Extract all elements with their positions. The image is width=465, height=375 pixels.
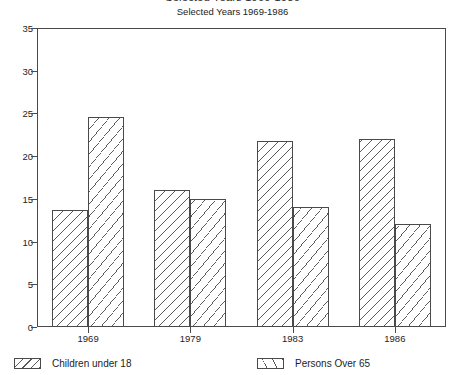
x-axis-tick-label: 1969 <box>78 333 99 344</box>
x-axis-tick-mark <box>190 327 191 333</box>
bar-1983-persons-over-65 <box>293 207 329 327</box>
x-axis-tick-mark <box>293 327 294 333</box>
y-axis-tick-label: 30 <box>0 65 33 76</box>
y-axis-tick-mark <box>31 199 37 200</box>
y-axis-tick-mark <box>31 156 37 157</box>
x-axis-tick-label: 1986 <box>384 333 405 344</box>
x-axis-tick-label: 1983 <box>282 333 303 344</box>
legend-label-children-under-18: Children under 18 <box>52 358 132 369</box>
y-axis-tick-label: 35 <box>0 23 33 34</box>
x-axis-tick-label: 1979 <box>180 333 201 344</box>
chart-title: Selected Years 1969-1986 <box>0 0 465 2</box>
y-axis-tick-mark <box>31 242 37 243</box>
bar-1986-children-under-18 <box>359 139 395 327</box>
bar-1979-children-under-18 <box>154 190 190 327</box>
y-axis-tick-label: 5 <box>0 279 33 290</box>
chart-container: Selected Years 1969-1986 Selected Years … <box>0 0 465 375</box>
legend-swatch-children-under-18 <box>14 358 41 369</box>
y-axis-tick-label: 10 <box>0 236 33 247</box>
x-axis-tick-mark <box>395 327 396 333</box>
bar-1983-children-under-18 <box>257 141 293 327</box>
y-axis-tick-label: 0 <box>0 322 33 333</box>
y-axis-tick-label: 15 <box>0 193 33 204</box>
chart-legend: Children under 18 Persons Over 65 <box>0 352 465 375</box>
legend-item-persons-over-65: Persons Over 65 <box>257 355 370 371</box>
x-axis-tick-mark <box>88 327 89 333</box>
bar-1979-persons-over-65 <box>190 199 226 327</box>
legend-swatch-persons-over-65 <box>257 358 284 369</box>
y-axis-tick-mark <box>31 113 37 114</box>
bar-1986-persons-over-65 <box>395 224 431 327</box>
y-axis-tick-mark <box>31 327 37 328</box>
y-axis-tick-mark <box>31 28 37 29</box>
bar-1969-persons-over-65 <box>88 117 124 327</box>
chart-subtitle: Selected Years 1969-1986 <box>0 6 465 17</box>
bar-1969-children-under-18 <box>52 210 88 327</box>
y-axis-tick-mark <box>31 71 37 72</box>
legend-label-persons-over-65: Persons Over 65 <box>295 358 370 369</box>
y-axis-tick-label: 20 <box>0 151 33 162</box>
legend-item-children-under-18: Children under 18 <box>14 355 132 371</box>
y-axis-tick-mark <box>31 284 37 285</box>
y-axis-tick-label: 25 <box>0 108 33 119</box>
